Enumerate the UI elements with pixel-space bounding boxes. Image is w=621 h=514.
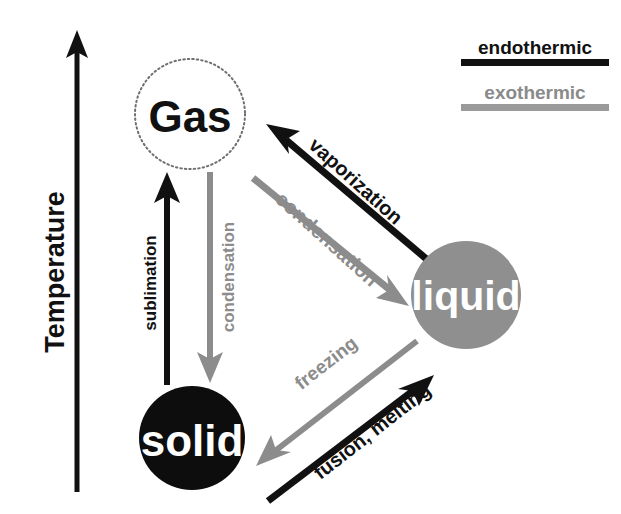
transition-label-freezing: freezing (291, 332, 361, 393)
state-node-gas[interactable]: Gas (135, 59, 245, 169)
arrow-vaporization-shaft (286, 140, 430, 262)
transition-label-fusion-melting: fusion, melting (309, 379, 435, 484)
state-label-solid: solid (141, 416, 244, 465)
temperature-axis: Temperature (40, 30, 88, 492)
legend-item-endothermic: endothermic (461, 37, 609, 67)
transition-label-deposition-condensation: condensation (219, 222, 238, 333)
legend: endothermic exothermic (461, 37, 609, 112)
phase-change-diagram-canvas: Temperature endothermic exothermic (0, 0, 621, 514)
temperature-axis-label: Temperature (40, 191, 70, 353)
legend-item-exothermic: exothermic (461, 82, 609, 112)
state-label-liquid: liquid (411, 273, 520, 319)
transition-label-sublimation: sublimation (141, 235, 160, 330)
state-node-solid[interactable]: solid (139, 386, 245, 490)
legend-label-exothermic: exothermic (484, 82, 586, 103)
phase-change-diagram: Temperature endothermic exothermic (0, 0, 621, 514)
state-label-gas: Gas (148, 92, 231, 141)
legend-swatch-exothermic (461, 104, 609, 111)
legend-swatch-endothermic (461, 59, 609, 66)
state-node-liquid[interactable]: liquid (411, 241, 521, 349)
legend-label-endothermic: endothermic (478, 37, 592, 58)
transition-label-vaporization: vaporization (305, 133, 407, 228)
